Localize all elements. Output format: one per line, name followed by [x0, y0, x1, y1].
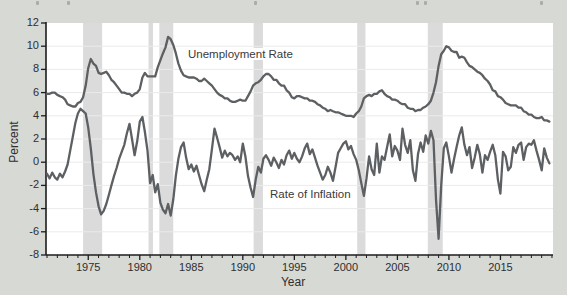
x-tick-label: 2000	[325, 261, 367, 273]
y-tick-label: 12	[13, 16, 39, 28]
x-tick-label: 1975	[67, 261, 109, 273]
y-tick-label: -4	[13, 202, 39, 214]
x-tick-label: 2015	[479, 261, 521, 273]
y-tick-label: 10	[13, 39, 39, 51]
y-tick-label: -6	[13, 225, 39, 237]
y-tick-label: -8	[13, 248, 39, 260]
x-axis-title: Year	[263, 275, 323, 289]
unemployment-series-label: Unemployment Rate	[186, 48, 295, 60]
x-tick-label: 1990	[222, 261, 264, 273]
x-tick-label: 2005	[376, 261, 418, 273]
x-tick-label: 1985	[170, 261, 212, 273]
chart-canvas	[0, 0, 567, 295]
y-tick-label: -2	[13, 178, 39, 190]
phillips-curve-figure: Percent Year Unemployment Rate Rate of I…	[0, 0, 567, 295]
y-tick-label: 8	[13, 62, 39, 74]
y-tick-label: 4	[13, 109, 39, 121]
y-tick-label: 2	[13, 132, 39, 144]
y-tick-label: 6	[13, 86, 39, 98]
y-tick-label: 0	[13, 155, 39, 167]
x-tick-label: 1980	[119, 261, 161, 273]
x-tick-label: 1995	[273, 261, 315, 273]
x-tick-label: 2010	[428, 261, 470, 273]
inflation-series-label: Rate of Inflation	[268, 188, 353, 200]
